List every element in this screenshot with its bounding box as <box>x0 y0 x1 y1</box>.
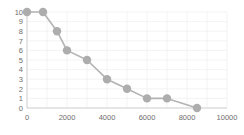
x-tick-label: 2000 <box>59 113 76 122</box>
data-point-marker <box>63 46 71 54</box>
chart-canvas: 012345678910 0200040006000800010000 <box>0 0 244 135</box>
data-point-marker <box>53 27 61 35</box>
y-tick-label: 6 <box>19 46 23 55</box>
data-point-marker <box>83 56 91 64</box>
data-point-marker <box>39 8 47 16</box>
x-tick-label: 6000 <box>139 113 156 122</box>
x-tick-label: 4000 <box>99 113 116 122</box>
y-tick-label: 4 <box>19 65 23 74</box>
x-tick-label: 8000 <box>179 113 196 122</box>
line-chart: 012345678910 0200040006000800010000 <box>0 0 244 135</box>
y-tick-label: 2 <box>19 85 23 94</box>
y-tick-label: 5 <box>19 56 23 65</box>
data-point-marker <box>123 85 131 93</box>
y-tick-label: 0 <box>19 104 23 113</box>
y-tick-label: 8 <box>19 27 23 36</box>
data-point-marker <box>193 104 201 112</box>
data-point-marker <box>143 94 151 102</box>
y-tick-label: 3 <box>19 75 23 84</box>
y-axis-tick-labels: 012345678910 <box>15 8 23 113</box>
gridlines <box>27 12 227 108</box>
x-axis-tick-labels: 0200040006000800010000 <box>25 113 238 122</box>
data-point-marker <box>23 8 31 16</box>
x-tick-label: 10000 <box>217 113 238 122</box>
y-tick-label: 1 <box>19 94 23 103</box>
y-tick-label: 7 <box>19 37 23 46</box>
x-tick-label: 0 <box>25 113 29 122</box>
data-point-marker <box>163 94 171 102</box>
y-tick-label: 9 <box>19 17 23 26</box>
data-point-marker <box>103 75 111 83</box>
y-tick-label: 10 <box>15 8 23 17</box>
